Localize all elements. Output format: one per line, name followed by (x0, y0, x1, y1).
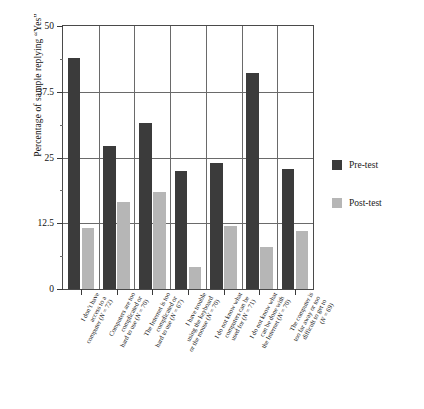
chart-figure: Percentage of sample replying “Yes” 012.… (0, 0, 424, 409)
y-axis-tick-label: 37.5 (37, 87, 54, 97)
gridline-horizontal (63, 92, 313, 93)
y-axis-tick (57, 289, 63, 290)
y-axis-tick-label: 25 (45, 153, 55, 163)
y-axis-tick-label: 50 (45, 21, 55, 31)
y-axis-minor-tick (60, 125, 63, 126)
bar-pre-test (68, 58, 81, 289)
bar-post-test (224, 226, 237, 289)
plot-area: 012.52537.550 (62, 25, 314, 290)
bar-pre-test (246, 73, 259, 289)
bar-pre-test (103, 146, 116, 289)
y-axis-tick (57, 223, 63, 224)
y-axis-minor-tick (60, 59, 63, 60)
x-axis-labels: I don’t haveaccess to acomputer (N = 72)… (62, 291, 362, 409)
gridline-vertical (170, 26, 171, 289)
gridline-vertical (134, 26, 135, 289)
y-axis-tick-label: 0 (49, 284, 54, 294)
gridline-vertical (206, 26, 207, 289)
gridline-vertical (242, 26, 243, 289)
legend-item-post-test: Post-test (332, 198, 420, 208)
bar-pre-test (210, 163, 223, 289)
gridline-vertical (277, 26, 278, 289)
bar-post-test (260, 247, 273, 289)
bar-post-test (296, 231, 309, 289)
y-axis-tick (57, 26, 63, 27)
gridline-horizontal (63, 158, 313, 159)
bar-post-test (189, 267, 202, 289)
y-axis-tick (57, 158, 63, 159)
plot-inner: 012.52537.550 (63, 26, 313, 289)
gridline-vertical (99, 26, 100, 289)
y-axis-minor-tick (60, 190, 63, 191)
legend-swatch-pre-test (332, 160, 342, 170)
gridline-horizontal (63, 223, 313, 224)
bar-pre-test (282, 169, 295, 289)
bar-pre-test (175, 171, 188, 289)
legend-swatch-post-test (332, 198, 342, 208)
legend-label-pre-test: Pre-test (349, 160, 378, 170)
bar-post-test (117, 202, 130, 289)
y-axis-minor-tick (60, 256, 63, 257)
bar-post-test (153, 192, 166, 289)
chart-legend: Pre-test Post-test (332, 160, 420, 236)
y-axis-tick-label: 12.5 (37, 218, 54, 228)
y-axis-tick (57, 92, 63, 93)
legend-item-pre-test: Pre-test (332, 160, 420, 170)
y-axis-title: Percentage of sample replying “Yes” (33, 0, 43, 215)
legend-label-post-test: Post-test (349, 198, 382, 208)
bar-post-test (82, 228, 95, 289)
bar-pre-test (139, 123, 152, 289)
